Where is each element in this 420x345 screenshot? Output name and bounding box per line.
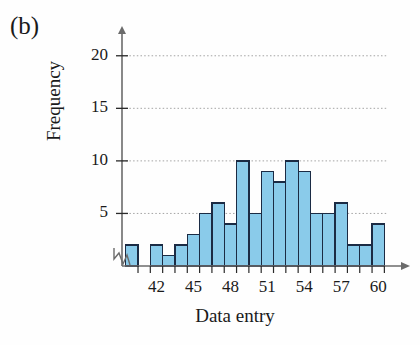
histogram-bar xyxy=(360,245,372,266)
y-axis-arrowhead xyxy=(118,26,126,34)
x-tick-label-48: 48 xyxy=(215,277,245,297)
histogram-bar xyxy=(249,213,261,266)
histogram-bar xyxy=(163,255,175,266)
histogram-bar xyxy=(323,213,335,266)
x-tick-label-51: 51 xyxy=(252,277,282,297)
bar-group xyxy=(126,161,385,266)
x-axis-title: Data entry xyxy=(120,305,350,327)
histogram-bar xyxy=(200,213,212,266)
y-axis-title: Frequency xyxy=(43,41,65,161)
x-tick-label-60: 60 xyxy=(363,277,393,297)
histogram-bar xyxy=(237,161,249,266)
histogram-bar xyxy=(310,213,322,266)
histogram-bar xyxy=(175,245,187,266)
x-tick-label-45: 45 xyxy=(178,277,208,297)
x-tick-label-54: 54 xyxy=(289,277,319,297)
x-axis-arrowhead xyxy=(401,262,410,270)
y-tick-label-15: 15 xyxy=(74,97,108,117)
histogram-bar xyxy=(261,171,273,266)
gridline-group xyxy=(122,56,387,214)
histogram-bar xyxy=(187,234,199,266)
histogram-bar xyxy=(274,182,286,266)
histogram-bar xyxy=(212,203,224,266)
histogram-bar xyxy=(224,224,236,266)
histogram-bar xyxy=(286,161,298,266)
histogram-bar xyxy=(347,245,359,266)
x-tick-label-57: 57 xyxy=(326,277,356,297)
histogram-bar xyxy=(372,224,384,266)
histogram-bar xyxy=(150,245,162,266)
y-tick-label-20: 20 xyxy=(74,45,108,65)
figure-panel-b: (b) Frequency Data entry 5101520 4245485… xyxy=(0,0,420,345)
y-tick-label-10: 10 xyxy=(74,150,108,170)
panel-label: (b) xyxy=(10,12,39,40)
histogram-bar xyxy=(298,171,310,266)
x-tick-label-42: 42 xyxy=(141,277,171,297)
histogram-bar xyxy=(335,203,347,266)
y-tick-label-5: 5 xyxy=(74,202,108,222)
